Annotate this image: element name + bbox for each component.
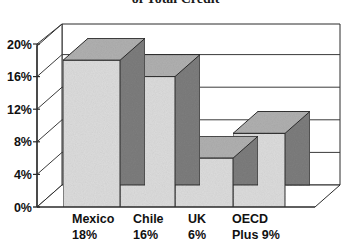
y-tick-label-8: 8% [14, 135, 32, 149]
x-label-mexico-name: Mexico [72, 212, 115, 226]
y-tick-label-12: 12% [7, 103, 32, 117]
chart-container: of Total Credit [0, 0, 351, 243]
x-axis-category-labels: Mexico 18% Chile 16% UK 6% OECD Plus 9% [72, 212, 280, 242]
x-label-chile-name: Chile [133, 212, 164, 226]
x-label-oecd-value: Plus 9% [232, 228, 280, 242]
x-label-chile-value: 16% [133, 228, 158, 242]
y-tick-label-4: 4% [14, 168, 32, 182]
x-label-uk-value: 6% [188, 228, 206, 242]
y-tick-label-16: 16% [7, 70, 32, 84]
x-label-uk-name: UK [188, 212, 206, 226]
y-axis-tick-labels: 0% 4% 8% 12% 16% 20% [7, 38, 32, 215]
y-tick-label-0: 0% [14, 201, 32, 215]
bar-mexico[interactable] [63, 38, 145, 207]
x-label-oecd-name: OECD [232, 212, 268, 226]
bar-chart-svg: 0% 4% 8% 12% 16% 20% [0, 0, 351, 243]
x-label-mexico-value: 18% [72, 228, 97, 242]
y-tick-label-20: 20% [7, 38, 32, 52]
